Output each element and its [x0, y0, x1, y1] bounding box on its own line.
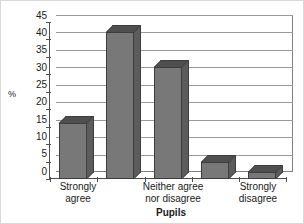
x-label-line2: agree [49, 193, 107, 205]
bar-strongly-agree [59, 123, 87, 179]
bar-front-face [106, 32, 134, 179]
x-axis-title: Pupils [49, 207, 293, 218]
y-axis-title: % [8, 89, 16, 99]
bar-front-face [248, 172, 276, 179]
x-label-strongly-disagree: Strongly disagree [229, 181, 287, 205]
bar-chart: % 45 40 35 30 25 20 15 10 5 0 [0, 0, 304, 224]
y-tick-label: 0 [41, 167, 47, 177]
x-label-line1: Neither agree [129, 181, 217, 193]
bar-front-face [59, 123, 87, 179]
bar-side-face [182, 60, 189, 179]
y-axis-tick-labels: 45 40 35 30 25 20 15 10 5 0 [23, 1, 47, 224]
bar-front-face [201, 162, 229, 179]
y-tick-label: 20 [36, 97, 47, 107]
y-tick-label: 5 [41, 149, 47, 159]
bar-strongly-disagree [248, 172, 276, 179]
x-label-line1: Strongly [229, 181, 287, 193]
y-tick-label: 35 [36, 45, 47, 55]
bar-neither-agree-nor-disagree [154, 67, 182, 179]
bar-disagree [201, 162, 229, 179]
x-label-neither-agree-nor-disagree: Neither agree nor disagree [129, 181, 217, 205]
x-label-line2: nor disagree [129, 193, 217, 205]
plot-area [49, 15, 293, 179]
y-tick-label: 25 [36, 80, 47, 90]
bar-front-face [154, 67, 182, 179]
y-tick-label: 45 [36, 11, 47, 21]
y-tick-label: 40 [36, 28, 47, 38]
bars-layer [49, 22, 286, 179]
bar-side-face [87, 116, 94, 179]
y-tick-label: 10 [36, 132, 47, 142]
y-tick-label: 15 [36, 115, 47, 125]
x-label-strongly-agree: Strongly agree [49, 181, 107, 205]
y-tick-label: 30 [36, 63, 47, 73]
bar-agree [106, 32, 134, 179]
gridline [56, 15, 293, 16]
x-label-line2: disagree [229, 193, 287, 205]
x-label-line1: Strongly [49, 181, 107, 193]
bar-side-face [134, 25, 141, 179]
